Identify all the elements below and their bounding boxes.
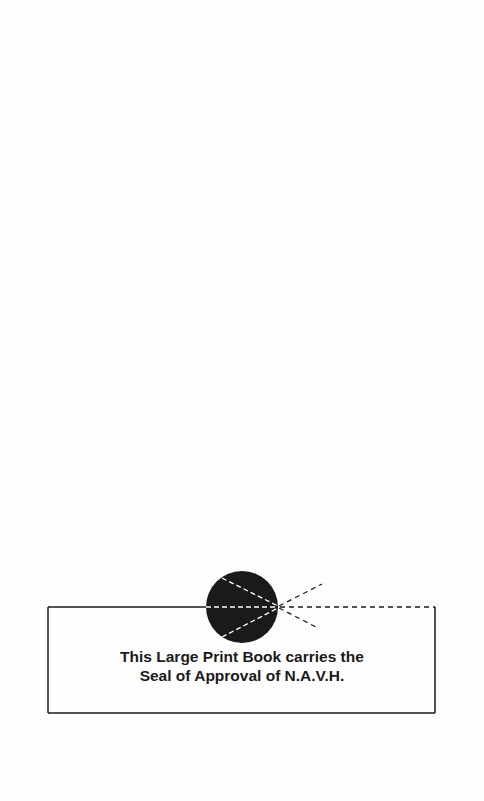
book-page: This Large Print Book carries the Seal o… [0, 0, 484, 801]
seal-caption-line-1: This Large Print Book carries the [48, 647, 436, 666]
seal-caption-line-2: Seal of Approval of N.A.V.H. [48, 666, 436, 685]
navh-seal-eye-icon [206, 571, 322, 643]
seal-caption: This Large Print Book carries the Seal o… [48, 647, 436, 685]
